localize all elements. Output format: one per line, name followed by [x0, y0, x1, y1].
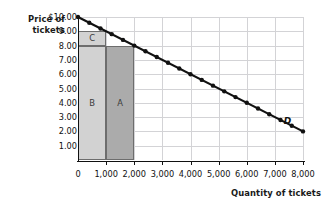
x-tick-label: 7,000 [263, 169, 286, 179]
x-tick-label: 1,000 [94, 169, 117, 179]
demand-curve-figure: Price of tickets 1.002.003.004.005.006.0… [0, 0, 325, 205]
x-tick-label: 2,000 [123, 169, 146, 179]
x-tick-label: 0 [75, 169, 80, 179]
x-tick-label: 5,000 [207, 169, 230, 179]
x-axis-title: Quantity of tickets [176, 188, 321, 199]
x-tick-label: 8,000 [291, 169, 314, 179]
x-tick-label: 6,000 [235, 169, 258, 179]
x-axis-tick-labels: 01,0002,0003,0004,0005,0006,0007,0008,00… [0, 0, 325, 205]
x-tick-label: 4,000 [179, 169, 202, 179]
x-tick-label: 3,000 [151, 169, 174, 179]
